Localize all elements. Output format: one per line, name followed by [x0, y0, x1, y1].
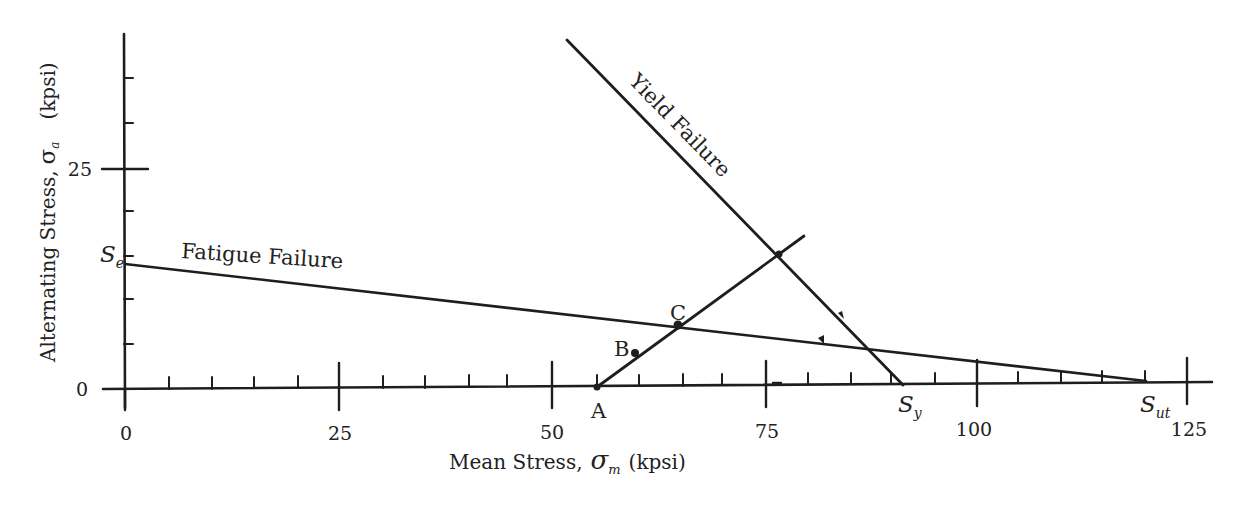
sy-label: Sy: [898, 391, 923, 421]
y-axis: [124, 34, 125, 408]
fatigue-failure-label: Fatigue Failure: [181, 239, 344, 273]
yield-intersection-marker: [776, 251, 783, 258]
svg-text:100: 100: [956, 418, 992, 440]
y-axis-title: Alternating Stress,σa(kpsi): [34, 62, 62, 363]
point-a-marker: [594, 384, 601, 391]
svg-text:25: 25: [328, 422, 352, 444]
sut-label: Sut: [1140, 391, 1171, 421]
svg-text:75: 75: [755, 420, 779, 442]
svg-text:125: 125: [1171, 418, 1207, 440]
goodman-diagram: A B C Fatigue Failure Yield Failure Se S…: [0, 0, 1243, 505]
x-axis-title: Mean Stress,σm(kpsi): [449, 445, 686, 477]
y-tick-label-25: 25: [68, 158, 92, 180]
svg-text:0: 0: [120, 422, 132, 444]
point-b-marker: [631, 349, 639, 357]
point-b-label: B: [614, 337, 629, 361]
x-tick-labels: 0 25 50 75 100 125: [120, 418, 1207, 444]
se-label: Se: [100, 241, 124, 271]
yield-failure-label: Yield Failure: [624, 68, 736, 182]
svg-text:50: 50: [540, 421, 564, 443]
fatigue-failure-line: [125, 264, 1146, 381]
x-axis: [103, 382, 1212, 389]
y-tick-label-0: 0: [76, 378, 88, 400]
load-line: [597, 236, 804, 387]
point-a-label: A: [590, 399, 607, 423]
point-c-label: C: [670, 301, 686, 325]
